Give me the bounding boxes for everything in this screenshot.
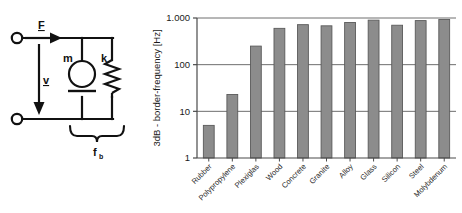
stiffness-label: k [101,52,108,64]
input-terminal-bottom [12,114,22,124]
border-frequency-subscript: b [99,153,103,160]
velocity-label: v [43,74,50,86]
bar [368,20,379,158]
bar [274,28,285,158]
bar [415,21,426,158]
spring-element [105,60,119,98]
y-tick-label: 10 [179,106,190,117]
x-axis-ticks: RubberPolypropylenePlexiglasWoodConcrete… [190,158,449,202]
bar [250,46,261,158]
x-tick-label: Concrete [280,162,308,190]
mass-label: m [63,52,73,64]
bar [392,25,403,158]
brace [70,126,124,142]
y-tick-label: 1.000 [166,12,190,23]
y-tick-label: 100 [174,59,190,70]
x-tick-label: Silicon [380,162,402,184]
x-tick-label: Steel [407,162,426,181]
chart-canvas: 3dB - border-frequency [Hz] 1.000100101 … [150,0,462,213]
bar [298,25,309,158]
x-tick-label: Glass [358,162,378,182]
force-arrow [25,33,62,44]
y-axis-ticks: 1.000100101 [166,12,197,163]
bar [439,19,450,158]
bars-group [203,19,449,158]
x-tick-label: Plexiglas [233,162,261,190]
bar [345,23,356,158]
bar [227,94,238,158]
y-axis-title: 3dB - border-frequency [Hz] [151,29,162,146]
diagram-canvas: F v m k f b [0,0,150,213]
mechanical-circuit-diagram: F v m k f b [0,0,150,213]
border-frequency-label: f [93,146,97,158]
figure-root: F v m k f b [0,0,462,213]
mass-element [68,61,96,91]
bar [321,26,332,158]
x-tick-label: Granite [307,162,331,186]
force-label: F [38,19,45,31]
y-tick-label: 1 [185,152,190,163]
bar [203,125,214,158]
x-tick-label: Alloy [337,162,355,180]
x-tick-label: Wood [264,162,284,182]
input-terminal-top [12,33,22,43]
border-frequency-bar-chart: 3dB - border-frequency [Hz] 1.000100101 … [150,0,462,213]
